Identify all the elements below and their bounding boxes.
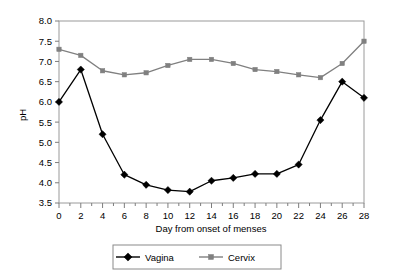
x-tick-label: 28 [359, 210, 370, 221]
x-tick-label: 12 [184, 210, 195, 221]
legend: VaginaCervix [113, 245, 281, 269]
data-point-marker [166, 63, 170, 67]
x-tick-label: 18 [250, 210, 261, 221]
x-tick-label: 10 [163, 210, 174, 221]
data-point-marker [340, 61, 344, 65]
data-point-marker [144, 71, 148, 75]
x-tick-label: 22 [293, 210, 304, 221]
data-point-marker [122, 73, 126, 77]
line-chart: 3.54.04.55.05.56.06.57.07.58.0 024681012… [0, 0, 394, 276]
legend-label: Cervix [228, 252, 255, 263]
x-axis-title: Day from onset of menses [156, 223, 267, 234]
y-tick-label: 8.0 [39, 15, 52, 26]
plot-frame [59, 21, 364, 203]
plot-area-border [59, 21, 364, 203]
y-tick-label: 5.5 [39, 117, 52, 128]
legend-label: Vagina [145, 252, 175, 263]
y-tick-label: 7.5 [39, 36, 52, 47]
y-tick-label: 6.0 [39, 96, 52, 107]
x-tick-label: 8 [143, 210, 148, 221]
x-tick-label: 6 [122, 210, 127, 221]
data-point-marker [296, 73, 300, 77]
chart-figure: 3.54.04.55.05.56.06.57.07.58.0 024681012… [0, 0, 394, 276]
data-point-marker [275, 69, 279, 73]
x-axis: 0246810121416182022242628 [56, 203, 369, 221]
data-point-marker [188, 57, 192, 61]
y-axis: 3.54.04.55.05.56.06.57.07.58.0 [39, 15, 59, 208]
data-point-marker [318, 75, 322, 79]
data-point-marker [79, 53, 83, 57]
x-tick-label: 26 [337, 210, 348, 221]
y-tick-label: 6.5 [39, 76, 52, 87]
y-tick-label: 4.0 [39, 177, 52, 188]
data-point-marker [253, 67, 257, 71]
x-tick-label: 4 [100, 210, 105, 221]
x-tick-label: 20 [272, 210, 283, 221]
y-tick-label: 4.5 [39, 157, 52, 168]
data-point-marker [209, 57, 213, 61]
x-tick-label: 2 [78, 210, 83, 221]
x-tick-label: 0 [56, 210, 61, 221]
y-tick-label: 3.5 [39, 197, 52, 208]
x-tick-label: 16 [228, 210, 239, 221]
data-point-marker [209, 255, 214, 260]
data-point-marker [231, 61, 235, 65]
y-axis-title: pH [17, 109, 28, 121]
data-point-marker [57, 47, 61, 51]
y-tick-label: 7.0 [39, 56, 52, 67]
data-point-marker [100, 69, 104, 73]
data-point-marker [362, 39, 366, 43]
y-tick-label: 5.0 [39, 137, 52, 148]
x-tick-label: 24 [315, 210, 326, 221]
x-tick-label: 14 [206, 210, 217, 221]
